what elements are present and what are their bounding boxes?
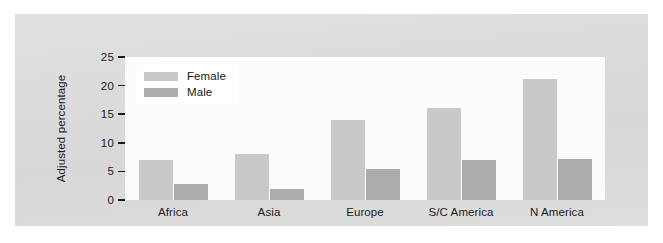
plot-area: FemaleMale: [125, 57, 605, 200]
legend-swatch-male: [144, 88, 178, 97]
bar-female-europe[interactable]: [331, 120, 365, 200]
legend-label-male: Male: [187, 86, 212, 99]
y-axis-tick-mark: [118, 85, 125, 87]
bar-group: [331, 57, 400, 200]
x-axis-label-africa: Africa: [158, 204, 188, 220]
legend-swatch-female: [144, 72, 178, 81]
y-axis-tick-label: 15: [101, 107, 114, 121]
y-axis-tick-label: 20: [101, 79, 114, 93]
y-axis-title: Adjusted percentage: [53, 57, 69, 200]
x-axis-label-europe: Europe: [346, 204, 384, 220]
y-axis-tick: 25: [101, 50, 125, 64]
bar-male-europe[interactable]: [366, 169, 400, 200]
bar-female-africa[interactable]: [139, 160, 173, 200]
chart-legend: FemaleMale: [137, 65, 238, 104]
legend-item-male[interactable]: Male: [144, 86, 226, 99]
bar-group: [235, 57, 304, 200]
x-axis: AfricaAsiaEuropeS/C AmericaN America: [125, 204, 605, 222]
bar-female-asia[interactable]: [235, 154, 269, 200]
y-axis-tick-mark: [118, 56, 125, 58]
y-axis-tick-label: 0: [107, 193, 114, 207]
y-axis-tick: 20: [101, 79, 125, 93]
y-axis-tick: 15: [101, 107, 125, 121]
bar-male-n-america[interactable]: [558, 159, 592, 200]
y-axis: 0510152025: [77, 50, 125, 207]
chart-page: Adjusted percentage 0510152025 FemaleMal…: [0, 0, 663, 243]
bar-group: [427, 57, 496, 200]
y-axis-tick-label: 5: [107, 164, 114, 178]
y-axis-tick-label: 10: [101, 136, 114, 150]
y-axis-tick-mark: [118, 199, 125, 201]
y-axis-tick: 10: [101, 136, 125, 150]
bar-male-s-c-america[interactable]: [462, 160, 496, 200]
y-axis-tick-mark: [118, 113, 125, 115]
legend-label-female: Female: [187, 70, 226, 83]
bar-group: [523, 57, 592, 200]
bar-female-s-c-america[interactable]: [427, 108, 461, 200]
y-axis-tick: 0: [107, 193, 125, 207]
bar-female-n-america[interactable]: [523, 79, 557, 200]
x-axis-label-asia: Asia: [258, 204, 281, 220]
figure-panel: Adjusted percentage 0510152025 FemaleMal…: [15, 14, 648, 226]
x-axis-label-n-america: N America: [530, 204, 584, 220]
y-axis-tick-mark: [118, 142, 125, 144]
y-axis-tick-mark: [118, 171, 125, 173]
x-axis-label-s-c-america: S/C America: [428, 204, 493, 220]
y-axis-tick-label: 25: [101, 50, 114, 64]
y-axis-tick: 5: [107, 164, 125, 178]
bar-male-africa[interactable]: [174, 184, 208, 200]
legend-item-female[interactable]: Female: [144, 70, 226, 83]
bar-male-asia[interactable]: [270, 189, 304, 200]
